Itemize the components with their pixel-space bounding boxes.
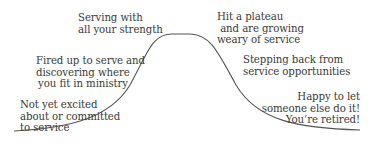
stage-label-stepping-back: Stepping back from service opportunities — [243, 54, 350, 77]
service-lifecycle-diagram: Not yet excited about or committed to se… — [0, 0, 375, 144]
stage-label-plateau: Hit a plateau and are growing weary of s… — [217, 11, 304, 46]
stage-label-retired: Happy to let someone else do it! You’re … — [260, 91, 360, 126]
stage-label-not-excited: Not yet excited about or committed to se… — [20, 99, 120, 134]
stage-label-fired-up: Fired up to serve and discovering where … — [36, 55, 128, 90]
stage-label-serving-strength: Serving with all your strength — [78, 12, 163, 35]
